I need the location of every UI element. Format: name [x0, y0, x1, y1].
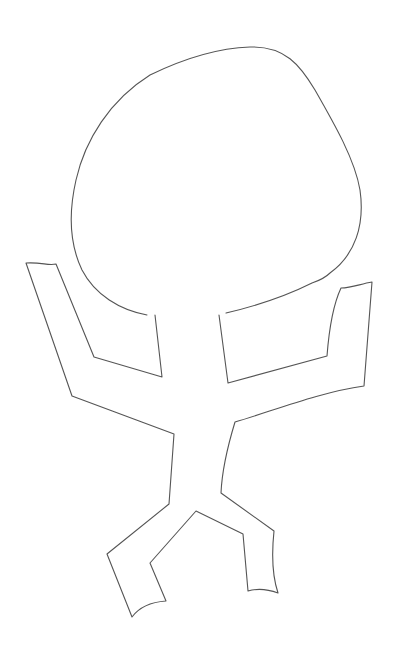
figure-drawing — [0, 0, 398, 653]
head — [71, 47, 361, 315]
drawing-canvas — [0, 0, 398, 653]
body-outline — [26, 263, 372, 617]
